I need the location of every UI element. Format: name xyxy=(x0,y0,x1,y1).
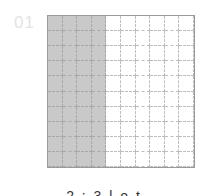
empty-cell xyxy=(121,31,136,46)
empty-cell xyxy=(150,122,165,137)
empty-cell xyxy=(106,16,121,31)
figure-number-label: 01 xyxy=(14,13,35,33)
empty-cell xyxy=(165,122,180,137)
shaded-cell xyxy=(48,152,63,167)
empty-cell xyxy=(106,46,121,61)
empty-cell xyxy=(165,46,180,61)
empty-cell xyxy=(179,152,194,167)
empty-cell xyxy=(106,122,121,137)
shaded-cell xyxy=(63,137,78,152)
empty-cell xyxy=(106,137,121,152)
shaded-cell xyxy=(92,61,107,76)
empty-cell xyxy=(136,92,151,107)
empty-cell xyxy=(121,107,136,122)
empty-cell xyxy=(179,92,194,107)
empty-cell xyxy=(150,31,165,46)
empty-cell xyxy=(121,122,136,137)
shaded-cell xyxy=(63,107,78,122)
shaded-cell xyxy=(48,61,63,76)
empty-cell xyxy=(179,107,194,122)
empty-cell xyxy=(136,107,151,122)
shaded-cell xyxy=(63,76,78,91)
empty-cell xyxy=(150,61,165,76)
shaded-cell xyxy=(92,16,107,31)
empty-cell xyxy=(150,92,165,107)
shaded-cell xyxy=(92,31,107,46)
empty-cell xyxy=(165,61,180,76)
empty-cell xyxy=(165,76,180,91)
shaded-cell xyxy=(48,92,63,107)
empty-cell xyxy=(179,46,194,61)
empty-cell xyxy=(165,31,180,46)
shaded-cell xyxy=(63,46,78,61)
empty-cell xyxy=(136,16,151,31)
shaded-cell xyxy=(77,76,92,91)
empty-cell xyxy=(150,46,165,61)
shaded-cell xyxy=(77,122,92,137)
empty-cell xyxy=(121,76,136,91)
shaded-cell xyxy=(48,16,63,31)
empty-cell xyxy=(136,137,151,152)
shaded-cell xyxy=(48,31,63,46)
empty-cell xyxy=(165,137,180,152)
shaded-cell xyxy=(48,122,63,137)
shaded-cell xyxy=(63,122,78,137)
shaded-cell xyxy=(92,46,107,61)
empty-cell xyxy=(121,152,136,167)
shaded-cell xyxy=(48,76,63,91)
shaded-cell xyxy=(48,107,63,122)
empty-cell xyxy=(136,152,151,167)
empty-cell xyxy=(121,137,136,152)
shaded-cell xyxy=(92,92,107,107)
shaded-cell xyxy=(77,107,92,122)
empty-cell xyxy=(179,137,194,152)
empty-cell xyxy=(136,31,151,46)
empty-cell xyxy=(136,76,151,91)
empty-cell xyxy=(179,122,194,137)
shaded-cell xyxy=(92,152,107,167)
shaded-cell xyxy=(63,16,78,31)
shaded-cell xyxy=(92,76,107,91)
shaded-cell xyxy=(63,92,78,107)
shaded-cell xyxy=(77,137,92,152)
empty-cell xyxy=(165,16,180,31)
shaded-cell xyxy=(77,16,92,31)
empty-cell xyxy=(179,76,194,91)
figure-caption: 2 : 3 l o t xyxy=(0,188,208,196)
shaded-cell xyxy=(77,61,92,76)
empty-cell xyxy=(150,107,165,122)
shaded-cell xyxy=(77,152,92,167)
empty-cell xyxy=(136,61,151,76)
shaded-cell xyxy=(77,31,92,46)
empty-cell xyxy=(165,107,180,122)
shaded-cell xyxy=(77,46,92,61)
shaded-cell xyxy=(92,107,107,122)
shaded-cell xyxy=(77,92,92,107)
shaded-cell xyxy=(92,137,107,152)
empty-cell xyxy=(121,16,136,31)
empty-cell xyxy=(136,46,151,61)
shaded-cell xyxy=(48,137,63,152)
empty-cell xyxy=(150,76,165,91)
empty-cell xyxy=(106,31,121,46)
empty-cell xyxy=(121,46,136,61)
shaded-cell xyxy=(48,46,63,61)
empty-cell xyxy=(121,92,136,107)
shaded-cell xyxy=(63,152,78,167)
empty-cell xyxy=(136,122,151,137)
fraction-grid xyxy=(47,15,195,168)
empty-cell xyxy=(106,152,121,167)
empty-cell xyxy=(165,152,180,167)
empty-cell xyxy=(179,61,194,76)
shaded-cell xyxy=(63,61,78,76)
empty-cell xyxy=(165,92,180,107)
shaded-cell xyxy=(92,122,107,137)
empty-cell xyxy=(121,61,136,76)
empty-cell xyxy=(150,137,165,152)
empty-cell xyxy=(179,31,194,46)
empty-cell xyxy=(106,107,121,122)
empty-cell xyxy=(150,16,165,31)
empty-cell xyxy=(179,16,194,31)
empty-cell xyxy=(106,92,121,107)
shaded-cell xyxy=(63,31,78,46)
